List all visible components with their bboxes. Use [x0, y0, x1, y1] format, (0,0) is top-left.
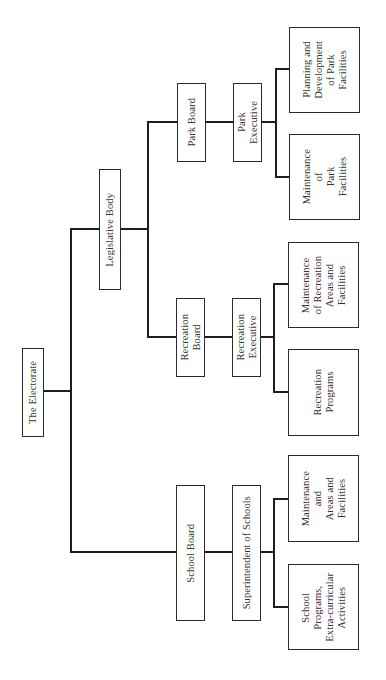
connector-to-park-planning [275, 68, 289, 70]
node-label: Maintenance of Recreation Areas and Faci… [300, 256, 348, 314]
node-label: Park Executive [236, 101, 260, 144]
node-label: The Electorate [27, 361, 39, 424]
node-label: Legislative Body [104, 193, 116, 267]
node-label: Superintendent of Schools [241, 496, 253, 609]
node-school-board: School Board [176, 485, 205, 621]
connector-to-school-board [70, 551, 176, 553]
node-park-maintenance: Maintenance of Park Facilities [289, 134, 360, 220]
node-school-maintenance: Maintenance and Areas and Facilities [288, 455, 359, 542]
node-label: Maintenance of Park Facilities [301, 149, 349, 204]
connector-to-park-board [147, 121, 177, 123]
connector-park-exec-to-spine [262, 121, 276, 123]
connector-to-park-maintenance [275, 176, 289, 178]
connector-electorate-to-spine [43, 390, 72, 392]
node-label: Maintenance and Areas and Facilities [300, 471, 348, 526]
node-label: School Board [185, 524, 197, 583]
node-school-programs: School Programs, Extra-curricular Activi… [288, 564, 359, 650]
node-recreation-executive: Recreation Executive [232, 298, 261, 377]
spine-superintendent [273, 498, 275, 608]
connector-to-recreation-board [147, 336, 176, 338]
connector-to-school-programs [273, 606, 288, 608]
node-superintendent: Superintendent of Schools [232, 485, 261, 621]
connector-school-board-to-superintendent [204, 551, 232, 553]
connector-to-rec-programs [273, 391, 288, 393]
spine-park-executive [275, 68, 277, 178]
node-recreation-programs: Recreation Programs [288, 349, 359, 436]
connector-to-school-maintenance [273, 498, 288, 500]
node-recreation-board: Recreation Board [176, 298, 205, 377]
connector-park-board-to-executive [205, 121, 233, 123]
connector-to-rec-maintenance [273, 283, 288, 285]
connector-rec-board-to-executive [204, 336, 232, 338]
node-label: Recreation Board [179, 314, 203, 360]
spine-recreation-executive [273, 283, 275, 393]
node-recreation-maintenance: Maintenance of Recreation Areas and Faci… [288, 242, 359, 328]
node-electorate: The Electorate [22, 348, 44, 437]
node-label: Park Board [186, 98, 198, 147]
connector-legislative-to-spine [120, 228, 149, 230]
connector-superintendent-to-spine [260, 551, 274, 553]
node-label: School Programs, Extra-curricular Activi… [300, 573, 348, 642]
spine-legislative [147, 121, 149, 338]
node-label: Recreation Executive [235, 314, 259, 360]
node-label: Recreation Programs [312, 369, 336, 415]
node-park-executive: Park Executive [233, 83, 262, 162]
node-park-planning: Planning and Development of Park Facilit… [289, 27, 360, 113]
node-park-board: Park Board [177, 83, 206, 162]
node-label: Planning and Development of Park Facilit… [301, 41, 349, 99]
connector-to-legislative [70, 228, 99, 230]
spine-electorate [70, 228, 72, 553]
node-legislative-body: Legislative Body [99, 169, 121, 290]
